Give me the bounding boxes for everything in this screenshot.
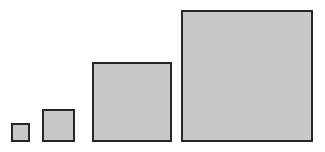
- square-shape-2: [42, 109, 75, 142]
- square-shape-4: [181, 10, 313, 142]
- figure-canvas: [0, 0, 325, 152]
- square-shape-3: [92, 62, 172, 142]
- square-shape-1: [11, 123, 30, 142]
